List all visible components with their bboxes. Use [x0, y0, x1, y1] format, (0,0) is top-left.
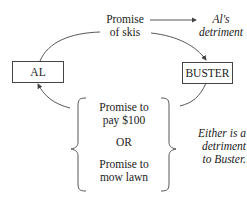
- or-label: OR: [88, 136, 160, 149]
- node-al: AL: [12, 61, 64, 83]
- node-buster-label: BUSTER: [185, 67, 229, 79]
- option2-line1: Promise to: [88, 158, 160, 171]
- option1-line2: pay $100: [88, 114, 160, 127]
- arc-options-to-al: [38, 84, 70, 108]
- promise-of-skis-label: Promise of skis: [102, 13, 148, 39]
- bottom-options: Promise to pay $100 OR Promise to mow la…: [88, 101, 160, 184]
- al-detriment-label: Al's detriment: [196, 13, 246, 39]
- right-brace: [161, 98, 176, 191]
- option1-line1: Promise to: [88, 101, 160, 114]
- arc-al-to-promise: [40, 32, 100, 61]
- promise-line2: of skis: [102, 26, 148, 39]
- left-brace: [71, 98, 86, 191]
- node-buster: BUSTER: [182, 62, 233, 84]
- note-line1: Either is a: [184, 127, 246, 140]
- arc-buster-to-options: [180, 83, 206, 106]
- buster-detriment-note: Either is a detriment to Buster.: [184, 127, 246, 166]
- option2-line2: mow lawn: [88, 171, 160, 184]
- note-line2: detriment: [184, 140, 246, 153]
- promise-line1: Promise: [102, 13, 148, 26]
- node-al-label: AL: [30, 66, 45, 78]
- al-detriment-line1: Al's: [196, 13, 246, 26]
- al-detriment-line2: detriment: [196, 26, 246, 39]
- note-line3: to Buster.: [184, 153, 246, 166]
